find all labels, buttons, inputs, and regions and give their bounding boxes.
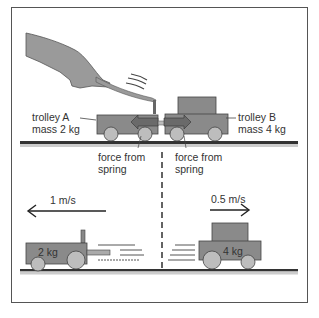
vibration-lines [126, 74, 147, 89]
trolley-b-mass-label: mass 4 kg [238, 123, 286, 135]
velocity-right-label: 0.5 m/s [211, 193, 245, 205]
diagram-canvas [0, 0, 319, 318]
velocity-arrow-right-icon [210, 204, 249, 216]
force-label-right-line2: spring [175, 163, 204, 175]
trolley-a-mass-label: mass 2 kg [32, 123, 80, 135]
spring-post [153, 100, 156, 114]
force-label-right-line1: force from [175, 151, 222, 163]
force-label-left-line2: spring [98, 163, 127, 175]
motion-lines-right [168, 245, 195, 260]
trolley-b-name-label: trolley B [238, 111, 276, 123]
hand-icon [26, 33, 156, 102]
trolley-4kg-mass-label: 4 kg [223, 245, 243, 257]
force-label-left-line1: force from [98, 151, 145, 163]
ground-bottom [20, 269, 298, 272]
leader-line-a [80, 118, 96, 120]
trolley-2kg-mass-label: 2 kg [38, 246, 58, 258]
trolley-a-name-label: trolley A [32, 111, 69, 123]
velocity-arrow-left-icon [28, 205, 106, 217]
velocity-left-label: 1 m/s [50, 194, 76, 206]
ground-top [20, 141, 298, 144]
